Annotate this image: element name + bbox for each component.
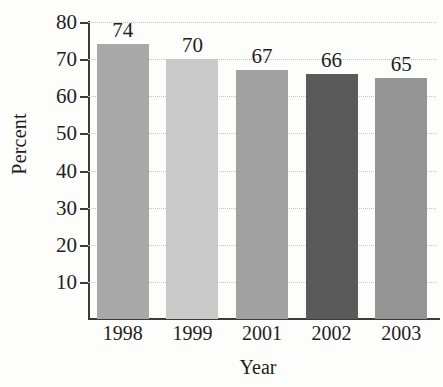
bar-value-label: 66 <box>306 48 358 73</box>
y-axis-tick-label: 50 <box>56 121 77 146</box>
bar-group: 67 <box>236 22 288 319</box>
bar-chart: Percent 1020304050607080 7470676665 1998… <box>0 0 443 387</box>
bar-value-label: 67 <box>236 44 288 69</box>
y-axis-tick-label: 60 <box>56 84 77 109</box>
x-axis-title: Year <box>78 356 438 379</box>
bar-group: 70 <box>166 22 218 319</box>
bar-group: 65 <box>375 22 427 319</box>
x-axis-tick-label: 1998 <box>83 322 163 345</box>
y-axis-tick-label: 30 <box>56 195 77 220</box>
y-axis-tick-mark <box>80 133 88 135</box>
x-axis-tick-label: 1999 <box>152 322 232 345</box>
y-axis-tick-mark <box>80 59 88 61</box>
x-axis-tick-label: 2002 <box>292 322 372 345</box>
bar-value-label: 65 <box>375 52 427 77</box>
bar-group: 66 <box>306 22 358 319</box>
bar <box>166 59 218 319</box>
y-axis-tick-mark <box>80 96 88 98</box>
y-axis-tick-label: 80 <box>56 10 77 35</box>
y-axis-tick-mark <box>80 282 88 284</box>
y-axis-tick-label: 10 <box>56 269 77 294</box>
y-axis-tick-mark <box>80 171 88 173</box>
bar <box>236 70 288 319</box>
x-axis-tick-label: 2001 <box>222 322 302 345</box>
y-axis-tick-mark <box>80 208 88 210</box>
bar <box>306 74 358 319</box>
plot-area: 1020304050607080 7470676665 <box>88 22 436 319</box>
y-axis-tick-mark <box>80 245 88 247</box>
bar <box>375 78 427 319</box>
bar-group: 74 <box>97 22 149 319</box>
y-axis-title: Percent <box>6 94 32 194</box>
x-axis-tick-label: 2003 <box>361 322 441 345</box>
y-axis-tick-mark <box>80 22 88 24</box>
bar <box>97 44 149 319</box>
y-axis-tick-label: 70 <box>56 47 77 72</box>
bar-value-label: 74 <box>97 18 149 43</box>
bar-value-label: 70 <box>166 33 218 58</box>
y-axis-tick-label: 40 <box>56 158 77 183</box>
y-axis-tick-label: 20 <box>56 232 77 257</box>
